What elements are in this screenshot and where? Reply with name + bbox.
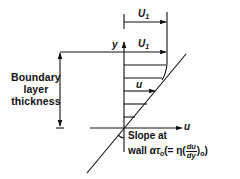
boundary-layer-thickness-label: Boundary layer thickness <box>11 72 61 107</box>
slope-angle-arc <box>118 135 124 138</box>
y-axis-label: y <box>112 40 118 50</box>
slope-label-line1: Slope at <box>128 131 167 141</box>
boundary-layer-diagram: y u U1 U1 u Boundary layer thickness Slo… <box>0 0 240 179</box>
du-dy-fraction: dudy <box>186 143 197 159</box>
local-u-label: u <box>136 80 142 90</box>
edge-u1-label: U1 <box>138 39 149 50</box>
slope-label-line2: wall ατo(= η(dudy)o) <box>128 143 208 159</box>
top-u1-label: U1 <box>138 9 149 20</box>
u-axis-label: u <box>184 122 190 132</box>
